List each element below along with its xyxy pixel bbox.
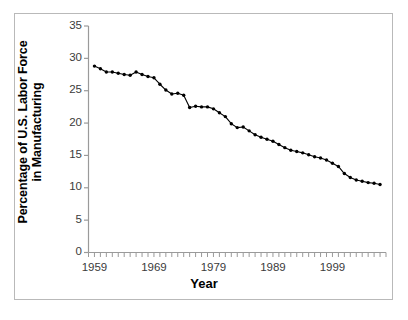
data-point [218,111,221,114]
data-point [200,105,203,108]
data-point [247,129,250,132]
axes-group [84,26,386,257]
data-point [236,126,239,129]
data-point [253,133,256,136]
data-point [277,143,280,146]
data-point [99,67,102,70]
data-point [128,73,131,76]
data-point [188,106,191,109]
x-tick-label: 1989 [251,261,295,273]
data-point [117,72,120,75]
y-tick-label: 20 [58,116,82,128]
data-point [164,88,167,91]
y-tick-label: 35 [58,19,82,31]
y-tick-label: 0 [58,245,82,257]
y-tick-label: 10 [58,180,82,192]
data-point [194,105,197,108]
data-point [301,151,304,154]
data-point [331,161,334,164]
data-point [146,75,149,78]
data-point [170,92,173,95]
data-point [242,125,245,128]
data-point [182,94,185,97]
data-point [307,153,310,156]
data-point [140,73,143,76]
data-point [265,138,268,141]
data-point [289,149,292,152]
data-point [111,70,114,73]
data-point [283,146,286,149]
data-point [134,70,137,73]
x-tick-label: 1999 [310,261,354,273]
data-point [158,83,161,86]
data-point [123,73,126,76]
data-point [259,136,262,139]
y-tick-label: 15 [58,148,82,160]
data-point [325,158,328,161]
data-point [343,172,346,175]
chart-figure: Percentage of U.S. Labor Force in Manufa… [0,0,408,320]
y-tick-label: 30 [58,51,82,63]
data-point [355,178,358,181]
x-tick-label: 1959 [72,261,116,273]
data-point [105,70,108,73]
data-point [93,64,96,67]
data-point [337,165,340,168]
data-point [271,139,274,142]
data-point [313,155,316,158]
data-point [361,180,364,183]
data-point [212,107,215,110]
data-point [230,122,233,125]
y-tick-label: 5 [58,213,82,225]
data-point [295,150,298,153]
data-point [224,115,227,118]
data-point [366,181,369,184]
data-point [176,92,179,95]
data-point [372,182,375,185]
data-point [152,76,155,79]
data-point [206,105,209,108]
data-point [319,156,322,159]
data-point [349,176,352,179]
x-tick-label: 1979 [191,261,235,273]
x-tick-label: 1969 [132,261,176,273]
data-point [378,183,381,186]
y-tick-label: 25 [58,83,82,95]
data-series-manufacturing-share [93,64,382,186]
